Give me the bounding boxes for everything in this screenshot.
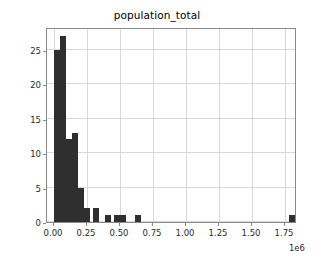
gridline-vertical (285, 29, 286, 222)
y-tick-label: 15 (17, 115, 41, 125)
gridline-vertical (186, 29, 187, 222)
gridline-vertical (120, 29, 121, 222)
histogram-bar (289, 215, 295, 222)
gridline-vertical (219, 29, 220, 222)
histogram-bar (84, 208, 90, 222)
x-tick-mark (218, 223, 219, 226)
x-tick-mark (251, 223, 252, 226)
y-tick-mark (43, 154, 46, 155)
x-tick-mark (185, 223, 186, 226)
gridline-horizontal (47, 49, 295, 50)
histogram-bar (135, 215, 141, 222)
y-tick-label: 20 (17, 80, 41, 90)
histogram-bar (93, 208, 99, 222)
histogram-bar (120, 215, 126, 222)
y-tick-label: 5 (17, 184, 41, 194)
y-tick-mark (43, 120, 46, 121)
y-tick-label: 25 (17, 46, 41, 56)
gridline-vertical (87, 29, 88, 222)
y-axis-tick-labels: 0510152025 (12, 0, 41, 266)
x-tick-mark (284, 223, 285, 226)
figure-canvas: population_total 0.000.250.500.751.001.2… (0, 0, 314, 266)
x-axis-offset-label: 1e6 (289, 243, 305, 253)
x-tick-mark (152, 223, 153, 226)
y-tick-label: 0 (17, 218, 41, 228)
gridline-vertical (153, 29, 154, 222)
gridline-horizontal (47, 152, 295, 153)
y-tick-mark (43, 85, 46, 86)
gridline-horizontal (47, 118, 295, 119)
x-tick-mark (53, 223, 54, 226)
y-tick-mark (43, 189, 46, 190)
y-tick-label: 10 (17, 149, 41, 159)
gridline-vertical (252, 29, 253, 222)
x-tick-mark (86, 223, 87, 226)
gridline-horizontal (47, 187, 295, 188)
plot-area (46, 28, 296, 223)
page-title: population_total (0, 9, 314, 21)
y-tick-mark (43, 51, 46, 52)
y-tick-mark (43, 223, 46, 224)
gridline-horizontal (47, 83, 295, 84)
histogram-bar (105, 215, 111, 222)
x-tick-label: 1.75 (264, 228, 304, 238)
x-tick-mark (119, 223, 120, 226)
